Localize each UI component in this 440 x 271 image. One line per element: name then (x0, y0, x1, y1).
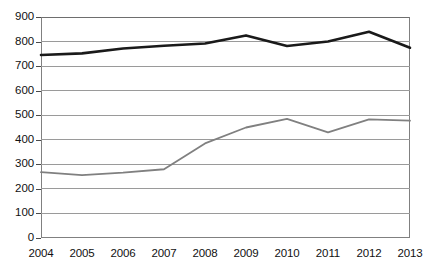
y-axis-tick-mark (36, 140, 41, 141)
x-axis-tick-label: 2007 (141, 248, 187, 260)
x-axis-tick-label: 2009 (223, 248, 269, 260)
gridlines (41, 42, 410, 214)
x-axis-tick-label: 2005 (59, 248, 105, 260)
chart-canvas (0, 0, 440, 271)
y-axis-tick-mark (36, 17, 41, 18)
x-axis-tick-label: 2012 (346, 248, 392, 260)
x-axis-tick-label: 2013 (387, 248, 433, 260)
y-axis-tick-mark (36, 189, 41, 190)
x-axis-tick-label: 2006 (100, 248, 146, 260)
series-line-upper-series (41, 32, 410, 55)
y-axis-tick-mark (36, 42, 41, 43)
x-axis-tick-label: 2011 (305, 248, 351, 260)
x-axis-tick-label: 2004 (18, 248, 64, 260)
y-axis-tick-mark (36, 115, 41, 116)
y-axis-tick-mark (36, 66, 41, 67)
y-axis-tick-mark (36, 164, 41, 165)
line-chart: 0100200300400500600700800900 20042005200… (0, 0, 440, 271)
y-axis-tick-mark (36, 238, 41, 239)
y-axis-tick-mark (36, 91, 41, 92)
y-axis-tick-mark (36, 213, 41, 214)
series-line-lower-series (41, 119, 410, 175)
x-axis-tick-label: 2008 (182, 248, 228, 260)
x-axis-tick-label: 2010 (264, 248, 310, 260)
series-lines (41, 32, 410, 175)
